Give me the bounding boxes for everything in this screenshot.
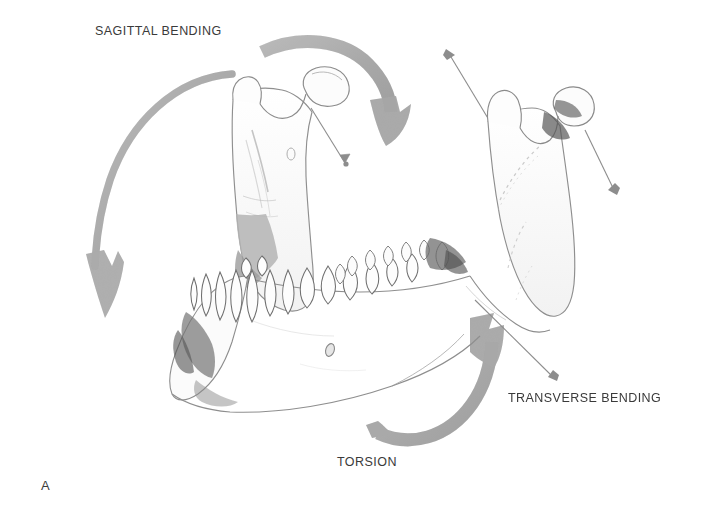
label-transverse-bending: TRANSVERSE BENDING xyxy=(508,391,661,405)
mandible-illustration xyxy=(0,0,704,525)
figure-panel: SAGITTAL BENDING TRANSVERSE BENDING TORS… xyxy=(0,0,704,525)
label-torsion: TORSION xyxy=(337,455,397,469)
label-sagittal-bending: SAGITTAL BENDING xyxy=(95,24,222,38)
panel-letter: A xyxy=(41,478,50,493)
